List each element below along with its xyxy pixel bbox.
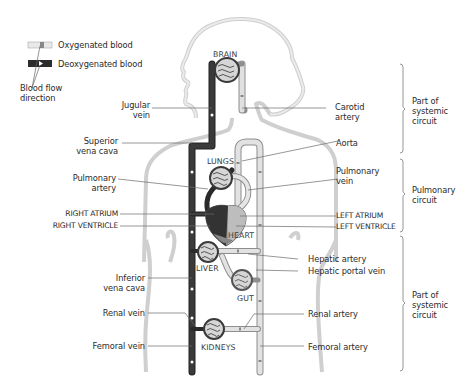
label-inferior-vena-cava-2: vena cava xyxy=(103,283,145,293)
legend-oxygenated-label: Oxygenated blood xyxy=(58,40,133,50)
label-pulmonary-artery-1: Pulmonary xyxy=(73,173,116,183)
circuit-brackets xyxy=(400,64,405,371)
label-right-atrium: RIGHT ATRIUM xyxy=(65,209,118,219)
legend-flow-label-line1: Blood flow xyxy=(20,83,62,93)
label-jugular-vein-1: Jugular xyxy=(122,100,150,110)
label-pulmonary-vein-1: Pulmonary xyxy=(336,166,379,176)
circuit-systemic-bottom-2: systemic xyxy=(412,300,448,310)
label-femoral-vein: Femoral vein xyxy=(93,341,145,351)
lungs-capillaries xyxy=(210,167,232,189)
label-carotid-artery-1: Carotid xyxy=(335,102,364,112)
circuit-systemic-top-1: Part of xyxy=(412,96,438,106)
label-pulmonary-artery-2: artery xyxy=(91,183,116,193)
circuit-systemic-bottom-1: Part of xyxy=(412,290,438,300)
legend-flow-label-line2: direction xyxy=(20,93,55,103)
liver-capillaries xyxy=(198,242,218,262)
label-right-ventricle: RIGHT VENTRICLE xyxy=(53,221,118,231)
organ-label-heart: HEART xyxy=(228,231,254,240)
label-jugular-vein-2: vein xyxy=(133,110,150,120)
label-left-atrium: LEFT ATRIUM xyxy=(336,211,383,221)
label-femoral-artery: Femoral artery xyxy=(308,342,368,352)
legend-deoxygenated-label: Deoxygenated blood xyxy=(58,59,142,69)
organ-label-lungs: LUNGS xyxy=(207,157,234,166)
organ-label-gut: GUT xyxy=(237,294,254,303)
organ-label-kidneys: KIDNEYS xyxy=(201,343,236,352)
label-left-ventricle: LEFT VENTRICLE xyxy=(336,222,396,232)
label-inferior-vena-cava-1: Inferior xyxy=(116,273,145,283)
circuit-systemic-top-2: systemic xyxy=(412,106,448,116)
label-pulmonary-vein-2: vein xyxy=(336,176,353,186)
label-carotid-artery-2: artery xyxy=(335,112,360,122)
label-renal-artery: Renal artery xyxy=(308,309,358,319)
circuit-pulmonary-2: circuit xyxy=(412,195,437,205)
gut-capillaries xyxy=(232,270,252,290)
label-hepatic-portal-vein: Hepatic portal vein xyxy=(308,266,385,276)
label-hepatic-artery: Hepatic artery xyxy=(308,254,366,264)
label-superior-vena-cava-2: vena cava xyxy=(76,146,118,156)
label-superior-vena-cava-1: Superior xyxy=(84,136,118,146)
label-renal-vein: Renal vein xyxy=(103,308,145,318)
circuit-pulmonary-1: Pulmonary xyxy=(412,185,455,195)
kidneys-capillaries xyxy=(204,319,224,339)
brain-capillaries xyxy=(215,58,239,82)
organ-label-liver: LIVER xyxy=(196,264,219,273)
circuit-systemic-bottom-3: circuit xyxy=(412,310,437,320)
organ-label-brain: BRAIN xyxy=(213,50,237,59)
circuit-systemic-top-3: circuit xyxy=(412,116,437,126)
label-aorta: Aorta xyxy=(336,138,358,148)
